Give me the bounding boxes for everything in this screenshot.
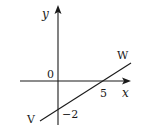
graph-canvas: y 0 5 x W V −2: [0, 0, 141, 127]
x-intercept-label: 5: [100, 87, 107, 100]
point-w-label: W: [117, 49, 129, 62]
y-intercept-label: −2: [62, 108, 78, 121]
origin-label: 0: [47, 68, 54, 81]
x-axis-label: x: [122, 86, 129, 100]
coordinate-graph: y 0 5 x W V −2: [0, 0, 141, 127]
point-v-label: V: [26, 113, 36, 126]
y-axis-label: y: [41, 7, 49, 21]
